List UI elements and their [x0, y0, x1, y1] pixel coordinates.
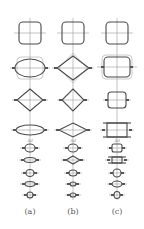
hinge-node [122, 147, 125, 149]
hinge-node [22, 147, 25, 149]
hinge-node [129, 129, 132, 131]
delta-annotation: Δd [27, 138, 32, 143]
column-label-c: (c) [112, 207, 123, 216]
hinge-node [23, 172, 26, 174]
hinge-node [111, 194, 114, 196]
deformation-diagram [0, 0, 144, 229]
delta-annotation: Δd [70, 138, 75, 143]
hinge-node [87, 129, 90, 131]
hinge-node [124, 159, 127, 161]
hinge-node [67, 183, 70, 185]
hinge-node [63, 159, 66, 161]
hinge-node [76, 194, 79, 196]
hinge-node [122, 183, 125, 185]
hinge-node [54, 67, 57, 69]
hinge-node [33, 194, 36, 196]
column-c [97, 18, 137, 200]
hinge-node [65, 147, 68, 149]
hinge-node [76, 183, 79, 185]
hinge-node [78, 147, 81, 149]
hinge-node [110, 172, 113, 174]
hinge-node [109, 183, 112, 185]
hinge-node [105, 99, 108, 101]
hinge-node [56, 129, 59, 131]
hinge-node [84, 99, 87, 101]
hinge-node [126, 99, 129, 101]
hinge-node [22, 183, 25, 185]
delta-annotation: Δd [114, 138, 119, 143]
hinge-node [121, 172, 124, 174]
hinge-node [59, 99, 62, 101]
hinge-node [14, 99, 17, 101]
hinge-node [101, 66, 104, 68]
hinge-node [13, 129, 16, 131]
hinge-node [43, 99, 46, 101]
hinge-node [80, 159, 83, 161]
hinge-node [66, 172, 69, 174]
hinge-node [35, 183, 38, 185]
hinge-node [34, 172, 37, 174]
hinge-node [89, 67, 92, 69]
hinge-node [109, 147, 112, 149]
hinge-node [120, 194, 123, 196]
hinge-node [21, 159, 24, 161]
hinge-node [130, 66, 133, 68]
hinge-node [77, 172, 80, 174]
hinge-node [107, 159, 110, 161]
hinge-node [12, 67, 15, 69]
hinge-node [36, 159, 39, 161]
hinge-node [24, 194, 27, 196]
hinge-node [45, 67, 48, 69]
hinge-node [67, 194, 70, 196]
hinge-node [102, 129, 105, 131]
hinge-node [35, 147, 38, 149]
column-a [10, 18, 50, 200]
column-label-b: (b) [67, 207, 78, 216]
column-b [52, 18, 94, 200]
hinge-node [44, 129, 47, 131]
column-label-a: (a) [24, 207, 35, 216]
